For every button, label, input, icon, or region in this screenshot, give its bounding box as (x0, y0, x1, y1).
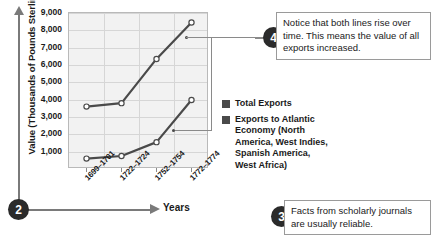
legend-label: Exports to Atlantic Economy (North Ameri… (235, 114, 332, 172)
y-axis-guide-arrow-stem (18, 14, 20, 205)
x-axis-guide-arrow-stem (18, 209, 153, 211)
y-axis-tick-label: 1,000 (41, 146, 62, 156)
x-axis-title: Years (163, 202, 190, 213)
legend-label: Total Exports (235, 98, 292, 110)
data-point-marker (189, 97, 194, 102)
legend-item: Total Exports (222, 98, 332, 110)
y-axis-tick-label: 6,000 (41, 59, 62, 69)
x-axis-guide-arrow-head (150, 204, 160, 214)
chart-figure: 2 Value (Thousands of Pounds Sterling) 1… (0, 0, 433, 238)
callout-box-4: Notice that both lines rise over time. T… (276, 12, 431, 60)
callout4-connector-upper (186, 37, 212, 38)
y-axis-tick-label: 9,000 (41, 7, 62, 17)
callout-box-3: Facts from scholarly journals are usuall… (284, 200, 431, 235)
y-axis-guide-arrow-head (14, 6, 24, 15)
callout4-connector-vertical (211, 37, 212, 131)
y-axis-title: Value (Thousands of Pounds Sterling) (26, 5, 37, 155)
chart-legend: Total ExportsExports to Atlantic Economy… (222, 98, 332, 175)
y-axis-tick-label: 3,000 (41, 111, 62, 121)
data-point-marker (154, 56, 159, 61)
y-axis-tick-label: 2,000 (41, 128, 62, 138)
y-axis-tick-label: 8,000 (41, 24, 62, 34)
data-point-marker (119, 153, 124, 158)
legend-item: Exports to Atlantic Economy (North Ameri… (222, 114, 332, 172)
data-point-marker (84, 104, 89, 109)
callout-badge-2[interactable]: 2 (9, 200, 28, 219)
data-point-marker (154, 140, 159, 145)
y-axis-tick-label: 5,000 (41, 76, 62, 86)
callout4-connector-lower (175, 130, 212, 131)
series-line (87, 23, 192, 107)
legend-swatch (222, 116, 230, 124)
y-axis-tick-label: 7,000 (41, 42, 62, 52)
y-axis-tick-label: 4,000 (41, 94, 62, 104)
data-point-marker (119, 101, 124, 106)
data-point-marker (189, 20, 194, 25)
legend-swatch (222, 100, 230, 108)
data-point-marker (84, 156, 89, 161)
callout4-anchor-dot-lower (172, 129, 175, 132)
